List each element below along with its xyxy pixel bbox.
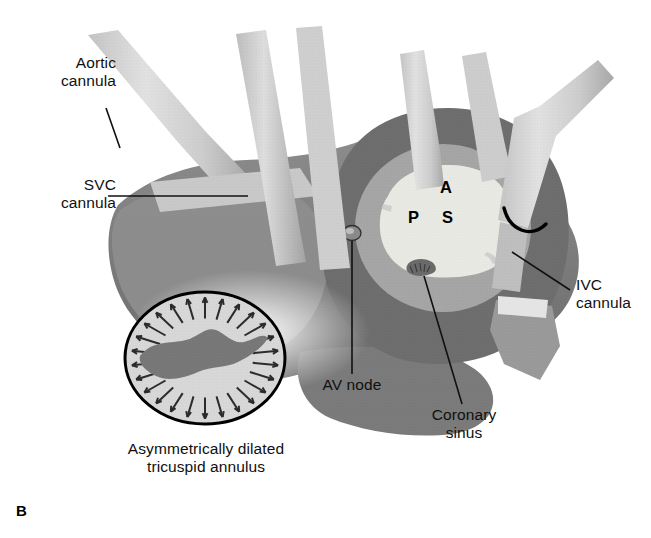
leader-aortic-cannula bbox=[106, 108, 120, 148]
label-aortic-cannula: Aortic cannula bbox=[6, 54, 116, 90]
inset-annulus-diagram bbox=[125, 292, 285, 424]
caption-inset-annulus: Asymmetrically dilated tricuspid annulus bbox=[80, 440, 332, 476]
label-coronary-sinus: Coronary sinus bbox=[404, 406, 524, 442]
panel-label: B bbox=[16, 502, 27, 519]
orifice-marker-posterior: P bbox=[408, 208, 419, 227]
label-svc-cannula: SVC cannula bbox=[6, 176, 116, 212]
orifice-marker-septal: S bbox=[442, 208, 453, 227]
figure-panel: Aortic cannula SVC cannula IVC cannula A… bbox=[0, 0, 651, 538]
cannula-lower-right-tip bbox=[490, 296, 560, 380]
label-ivc-cannula: IVC cannula bbox=[576, 276, 648, 312]
label-av-node: AV node bbox=[300, 376, 404, 394]
orifice-marker-anterior: A bbox=[440, 178, 452, 197]
